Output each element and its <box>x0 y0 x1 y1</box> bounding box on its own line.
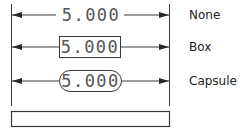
dimension-value-capsule: 5.000 <box>59 70 122 92</box>
dimension-value-none: 5.000 <box>59 4 123 26</box>
dimension-style-diagram: 5.000 5.000 5.000 None Box Capsule <box>0 0 244 130</box>
measured-part-rectangle <box>12 112 170 127</box>
style-label-box: Box <box>189 40 211 54</box>
style-label-capsule: Capsule <box>189 74 237 88</box>
style-label-none: None <box>189 8 220 22</box>
dimension-value-box: 5.000 <box>59 36 121 58</box>
